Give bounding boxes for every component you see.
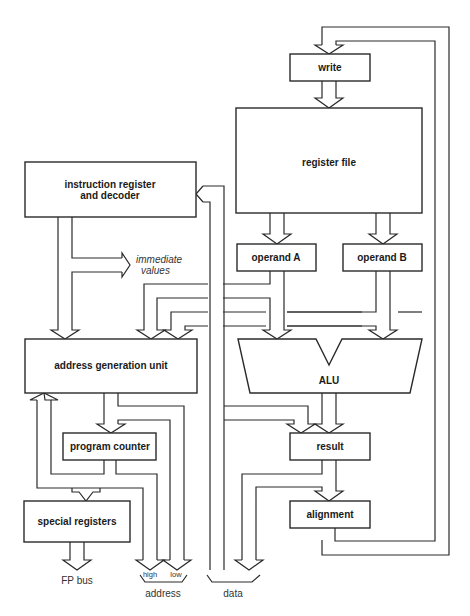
write-label: write [317, 62, 342, 73]
operand-b-label: operand B [357, 252, 406, 263]
regfile-to-operand-b-arrow [369, 213, 397, 244]
result-label: result [316, 441, 344, 452]
instruction-register-label-2: and decoder [80, 190, 140, 201]
feedback-bus [315, 27, 449, 555]
operand-a-branch [223, 271, 270, 284]
alignment-label: alignment [306, 509, 354, 520]
ir-to-agu-arrow [51, 217, 130, 339]
regfile-to-operand-a-arrow [263, 213, 291, 244]
fp-bus-arrow [63, 542, 91, 570]
low-label: low [170, 570, 182, 579]
data-bus [196, 186, 224, 570]
data-label: data [223, 588, 243, 599]
operand-a-label: operand A [251, 252, 300, 263]
immediate-label-2: values [141, 265, 170, 276]
write-to-regfile-arrow [315, 81, 343, 108]
operand-b-to-alu-arrow [287, 271, 397, 339]
address-low-arrow [163, 560, 191, 570]
instruction-register-label-1: instruction register [64, 179, 155, 190]
operand-a-to-alu-arrow [263, 271, 291, 339]
program-counter-label: program counter [70, 441, 150, 452]
data-bracket [207, 575, 260, 582]
high-label: high [143, 570, 157, 579]
immediate-label-1: immediate [136, 254, 183, 265]
special-registers-label: special registers [38, 516, 117, 527]
operand-buses-to-agu [137, 284, 422, 339]
cpu-block-diagram: write register file instruction register… [0, 0, 470, 616]
agu-label: address generation unit [54, 360, 168, 371]
alu-to-result-arrow [224, 393, 343, 433]
address-high-arrow [136, 560, 164, 570]
address-label: address [145, 588, 181, 599]
fp-bus-label: FP bus [61, 575, 93, 586]
alu-label: ALU [319, 375, 340, 386]
register-file-label: register file [302, 157, 356, 168]
